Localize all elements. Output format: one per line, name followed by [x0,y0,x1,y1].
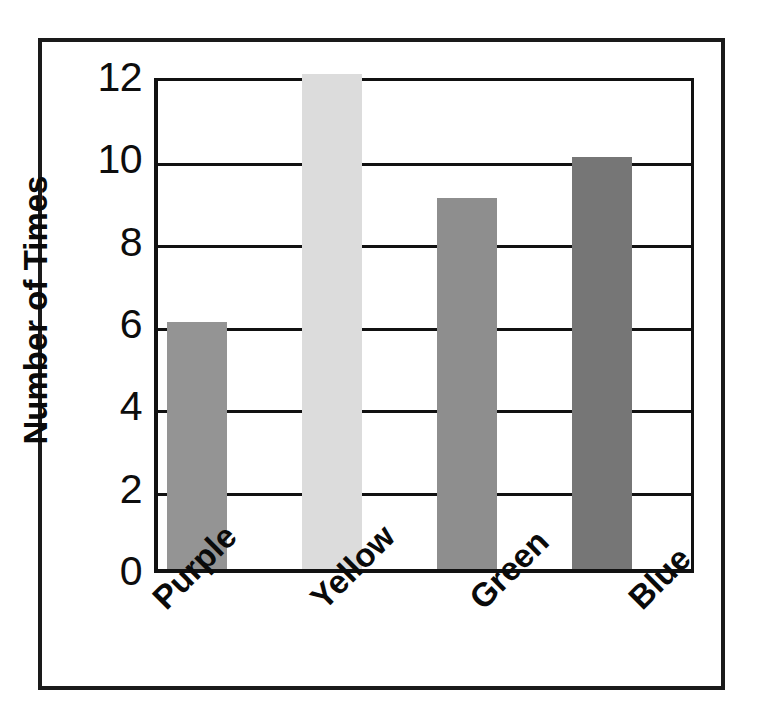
y-axis-tick-labels: 12 10 8 6 4 2 0 [78,0,142,728]
y-tick-label-12: 12 [78,57,142,98]
y-tick-label-4: 4 [78,386,142,427]
bars-layer [158,81,691,569]
y-tick-label-0: 0 [78,551,142,592]
y-axis-title: Number of Times [17,160,55,460]
bar-yellow [302,74,362,569]
bar-green [437,198,497,569]
y-tick-label-6: 6 [78,304,142,345]
bar-blue [572,157,632,570]
bar-chart: Number of Times 12 10 8 6 4 2 0 Purple Y… [0,0,764,728]
y-tick-label-10: 10 [78,139,142,180]
y-tick-label-8: 8 [78,222,142,263]
y-tick-label-2: 2 [78,469,142,510]
plot-area [154,78,694,573]
